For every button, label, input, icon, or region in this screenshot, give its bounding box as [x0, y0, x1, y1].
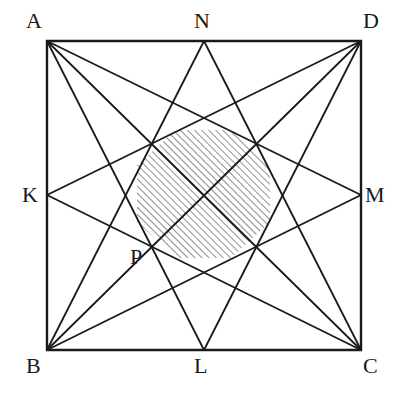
- vertex-label-K: K: [22, 184, 38, 206]
- vertex-label-B: B: [26, 355, 41, 377]
- vertex-label-A: A: [26, 10, 42, 32]
- vertex-label-M: M: [365, 184, 385, 206]
- vertex-label-L: L: [194, 355, 207, 377]
- vertex-label-C: C: [363, 355, 378, 377]
- geometry-canvas: [0, 0, 409, 397]
- vertex-label-P: P: [130, 246, 142, 268]
- cevian-lines-group: [47, 41, 361, 350]
- vertex-label-D: D: [363, 10, 379, 32]
- geometry-figure: A N D K M P B L C: [0, 0, 409, 397]
- vertex-label-N: N: [194, 10, 210, 32]
